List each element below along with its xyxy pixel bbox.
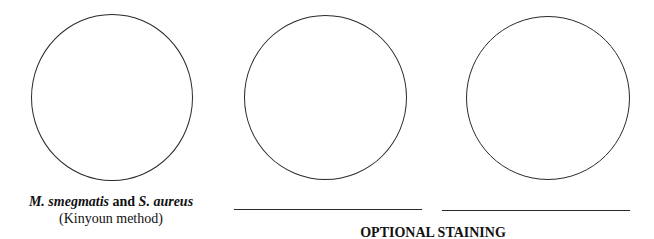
caption-method: (Kinyoun method) — [11, 211, 211, 227]
label-line-3 — [442, 210, 630, 211]
section-title: OPTIONAL STAINING — [313, 225, 553, 239]
organism-1-label: M. smegmatis — [29, 194, 109, 209]
caption-organisms: M. smegmatis and S. aureus — [11, 194, 211, 210]
label-line-2 — [234, 209, 422, 210]
organism-2-label: S. aureus — [139, 194, 193, 209]
drawing-circle-3 — [466, 16, 630, 180]
drawing-circle-1 — [31, 14, 193, 181]
conjunction-label: and — [109, 194, 139, 209]
drawing-circle-2 — [244, 15, 407, 180]
